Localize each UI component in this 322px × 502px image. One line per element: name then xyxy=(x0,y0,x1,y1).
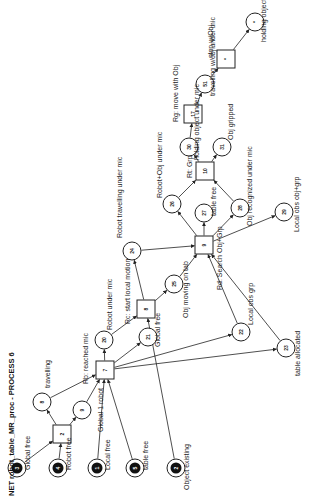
arc-t*-p* xyxy=(233,29,249,49)
place-id: 27 xyxy=(201,210,207,216)
transition-id: 2 xyxy=(59,432,65,435)
arc-p26-t10 xyxy=(179,180,196,197)
place-id: * xyxy=(252,21,258,23)
place-id: 22 xyxy=(238,329,244,335)
place-id: 5 xyxy=(132,466,138,469)
arcs-layer xyxy=(25,29,281,462)
place-26[interactable]: 26 xyxy=(163,195,181,213)
arc-t8-p24 xyxy=(134,260,143,299)
place-id: 8 xyxy=(39,400,45,403)
transition-id: * xyxy=(223,58,229,60)
place-id: 29 xyxy=(281,209,287,215)
place-label: Obj recognized under mic xyxy=(246,146,254,226)
place-label: Robot travelling under mic xyxy=(116,156,124,238)
place-label: Object existing xyxy=(183,444,191,490)
place-label: Robot under mic xyxy=(106,278,113,330)
transition-label: Rg: move with Obj xyxy=(172,64,180,122)
transition-label: stop w/Obj xyxy=(207,24,215,58)
place-label: table free xyxy=(142,441,149,470)
place-id: 9 xyxy=(79,408,85,411)
place-id: 2 xyxy=(173,466,179,469)
place-id: 25 xyxy=(171,281,177,287)
arc-t2-p8 xyxy=(47,410,56,425)
transition-id: 7 xyxy=(102,368,108,371)
transition-10[interactable]: 10 xyxy=(196,162,214,180)
place-20[interactable]: 20 xyxy=(95,331,113,349)
place-id: 24 xyxy=(129,248,135,254)
place-label: Robot+Obj under mic xyxy=(156,131,164,198)
petri-net-diagram: 341528920212425222326272829303151*278910… xyxy=(0,0,322,502)
arc-p5-t7 xyxy=(108,379,132,458)
place-label: Global free xyxy=(24,436,31,470)
transition-id: 8 xyxy=(143,307,149,310)
place-label: holding object under mic xyxy=(260,0,268,42)
place-label: Robot free xyxy=(65,437,72,470)
place-25[interactable]: 25 xyxy=(165,275,183,293)
labels-layer: Global freeRobot freeLocal freetable fre… xyxy=(24,0,301,490)
arc-p4-t2 xyxy=(59,443,61,458)
place-label: table free xyxy=(210,187,217,216)
place-9[interactable]: 9 xyxy=(73,401,91,419)
transition-label: Rb: reached mic xyxy=(82,333,89,384)
transition-9[interactable]: 9 xyxy=(195,236,213,254)
arc-p24-t9 xyxy=(141,246,194,250)
place-id: 28 xyxy=(237,205,243,211)
arc-t10-p31 xyxy=(212,155,217,162)
place-label: Local obs obj+grp xyxy=(293,176,301,232)
arc-t9-p26 xyxy=(178,211,197,235)
arc-t7-p21 xyxy=(114,343,140,363)
place-label: Global 1 robot xyxy=(97,388,104,432)
place-label: Local obs grp xyxy=(247,283,255,325)
net-title: NET robot_table_MR_proc - PROCESS 6 xyxy=(7,352,16,496)
place-id: 31 xyxy=(219,144,225,150)
arc-t8-p25 xyxy=(155,290,167,300)
transition-7[interactable]: 7 xyxy=(96,361,114,379)
place-label: Obj gripped xyxy=(227,104,235,140)
place-label: table allocated xyxy=(294,331,301,376)
place-label: Global free xyxy=(154,313,161,347)
arc-t7-p23 xyxy=(114,349,276,369)
place-id: 23 xyxy=(283,345,289,351)
place-label: holding object under mic xyxy=(193,84,201,160)
place-id: 26 xyxy=(169,201,175,207)
place-id: 30 xyxy=(186,144,192,150)
place-id: 1 xyxy=(94,466,100,469)
transition-id: 9 xyxy=(201,243,207,246)
arc-p30-t17 xyxy=(190,123,192,137)
transition-id: 10 xyxy=(202,168,208,174)
nodes-layer: 341528920212425222326272829303151*278910… xyxy=(8,13,295,477)
transition-8[interactable]: 8 xyxy=(137,300,155,318)
place-id: 4 xyxy=(55,466,61,469)
arc-t2-p9 xyxy=(70,417,76,424)
transition-label: Rt: Grp xyxy=(186,155,194,178)
place-label: Obj moving on tab xyxy=(182,261,190,318)
place-29[interactable]: 29 xyxy=(275,203,293,221)
place-8[interactable]: 8 xyxy=(33,393,51,411)
arc-t7-p22 xyxy=(114,335,231,368)
place-id: 21 xyxy=(145,334,151,340)
place-label: Local free xyxy=(104,439,111,470)
place-id: 20 xyxy=(101,337,107,343)
transition-*[interactable]: * xyxy=(217,50,235,68)
transition-label: Rc: start local motion xyxy=(124,259,131,324)
transition-label: Rd: Search Obj+Grp xyxy=(216,226,224,290)
place-24[interactable]: 24 xyxy=(123,242,141,260)
place-id: 51 xyxy=(202,81,208,87)
place-23[interactable]: 23 xyxy=(277,339,295,357)
place-label: travelling xyxy=(44,360,52,388)
